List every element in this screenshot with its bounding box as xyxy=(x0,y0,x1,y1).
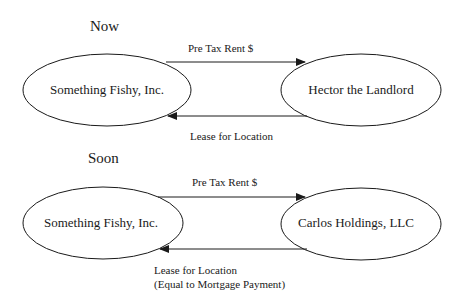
edge-label-lease-note-soon: (Equal to Mortgage Payment) xyxy=(154,278,285,290)
edge-label-lease-soon: Lease for Location xyxy=(154,264,237,276)
node-label-something-fishy-now: Something Fishy, Inc. xyxy=(50,82,164,98)
section-title-now: Now xyxy=(90,18,119,35)
node-label-something-fishy-soon: Something Fishy, Inc. xyxy=(44,215,158,231)
edge-label-pre-tax-rent-soon: Pre Tax Rent $ xyxy=(192,176,257,188)
edge-label-pre-tax-rent-now: Pre Tax Rent $ xyxy=(188,42,253,54)
node-label-carlos-holdings: Carlos Holdings, LLC xyxy=(298,215,414,231)
node-label-hector-the-landlord: Hector the Landlord xyxy=(308,82,413,98)
edge-label-lease-now: Lease for Location xyxy=(190,130,273,142)
section-title-soon: Soon xyxy=(88,150,119,167)
